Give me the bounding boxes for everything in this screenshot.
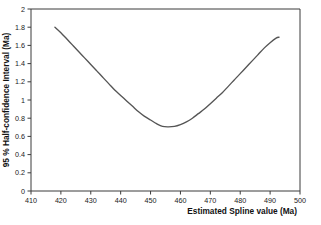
y-axis-title: 95 % Half-confidence Interval (Ma) [1, 32, 11, 167]
x-tick-label: 420 [55, 196, 67, 205]
y-tick-label: 0.6 [15, 132, 25, 141]
y-tick-label: 1 [21, 96, 25, 105]
x-tick-label: 500 [294, 196, 306, 205]
y-tick-label: 2 [21, 5, 25, 14]
line-chart: 00.20.40.60.811.21.41.61.82 410420430440… [0, 0, 321, 225]
x-tick-label: 450 [145, 196, 157, 205]
x-tick-label: 470 [204, 196, 216, 205]
x-tick-label: 490 [264, 196, 276, 205]
y-tick-label: 1.2 [15, 77, 25, 86]
y-tick-label: 1.4 [15, 59, 25, 68]
x-tick-label: 440 [115, 196, 127, 205]
y-tick-label: 0.8 [15, 114, 25, 123]
y-tick-label: 0.2 [15, 168, 25, 177]
y-tick-label: 1.8 [15, 23, 25, 32]
y-tick-label: 0 [21, 187, 25, 196]
x-tick-label: 430 [85, 196, 97, 205]
x-axis-title: Estimated Spline value (Ma) [187, 206, 297, 216]
x-tick-label: 460 [174, 196, 186, 205]
y-tick-label: 1.6 [15, 41, 25, 50]
x-tick-label: 410 [25, 196, 37, 205]
chart-figure: 00.20.40.60.811.21.41.61.82 410420430440… [0, 0, 321, 225]
plot-area-background [31, 9, 300, 191]
x-tick-label: 480 [234, 196, 246, 205]
y-tick-label: 0.4 [15, 150, 25, 159]
